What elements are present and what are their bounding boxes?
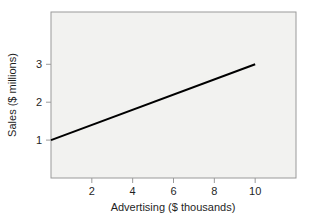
x-tick-label: 8 xyxy=(211,185,217,197)
y-axis-title: Sales ($ millions) xyxy=(6,53,18,137)
y-tick-label: 2 xyxy=(36,96,42,108)
y-tick-label: 1 xyxy=(36,134,42,146)
x-tick-label: 10 xyxy=(249,185,261,197)
x-tick-label: 4 xyxy=(130,185,136,197)
x-axis-title: Advertising ($ thousands) xyxy=(111,201,236,213)
y-tick-label: 3 xyxy=(36,58,42,70)
chart-canvas: 123 246810 Sales ($ millions) Advertisin… xyxy=(0,0,311,224)
x-tick-label: 2 xyxy=(89,185,95,197)
chart-figure: 123 246810 Sales ($ millions) Advertisin… xyxy=(0,0,311,224)
x-tick-label: 6 xyxy=(170,185,176,197)
x-axis-ticks: 246810 xyxy=(89,178,262,197)
y-axis-ticks: 123 xyxy=(36,58,51,146)
